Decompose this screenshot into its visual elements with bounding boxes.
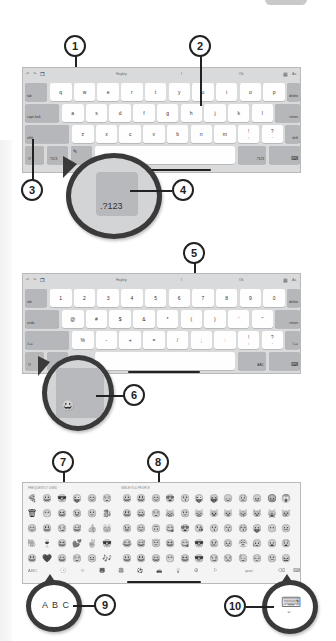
symbols-icon[interactable]: ☮ <box>194 567 198 573</box>
suggestion-2[interactable]: I <box>181 278 182 282</box>
undo-icon[interactable]: ↶ <box>26 278 29 282</box>
tab-key[interactable]: tab <box>25 289 47 307</box>
emoji-item[interactable]: 😊 <box>150 493 161 504</box>
keyboard-icon[interactable]: ▦ <box>283 71 288 77</box>
emoji-item[interactable]: 😎 <box>194 553 205 564</box>
recent-icon[interactable]: 🕒 <box>60 567 66 573</box>
emoji-item[interactable]: 😋 <box>179 538 190 549</box>
emoji-item[interactable]: 😇 <box>150 538 161 549</box>
key-1[interactable]: # <box>86 310 108 328</box>
key-6[interactable]: : <box>214 331 236 349</box>
abc-key[interactable]: ABC <box>238 352 266 370</box>
key-3[interactable]: v <box>143 125 165 143</box>
key-2[interactable]: $ <box>109 310 131 328</box>
key-8[interactable]: 8 <box>216 289 238 307</box>
emoji-item[interactable]: 😏 <box>208 553 219 564</box>
key-w[interactable]: w <box>74 83 96 101</box>
emoji-item[interactable]: 😄 <box>136 508 147 519</box>
emoji-item[interactable]: 😕 <box>266 553 277 564</box>
emoji-item[interactable]: 😗 <box>179 493 190 504</box>
emoji-item[interactable]: 😸 <box>194 508 205 519</box>
emoji-item[interactable]: 😔 <box>252 553 263 564</box>
caps-lock-key[interactable]: caps lock <box>25 104 59 122</box>
emoji-item[interactable]: 😉 <box>71 508 82 519</box>
key-p[interactable]: p <box>263 83 285 101</box>
emoji-item[interactable]: 😎 <box>194 538 205 549</box>
redo-icon[interactable]: ↷ <box>33 278 36 282</box>
key-q[interactable]: q <box>50 83 72 101</box>
key-9[interactable]: 9 <box>240 289 262 307</box>
key-4[interactable]: 4 <box>121 289 143 307</box>
emoji-item[interactable]: 😀 <box>121 493 132 504</box>
emoji-item[interactable]: 😌 <box>71 553 82 564</box>
emoji-item[interactable]: 🐉 <box>101 508 112 519</box>
key-1[interactable]: 1 <box>50 289 72 307</box>
keyboard-icon[interactable]: ▦ <box>283 277 288 283</box>
key-i[interactable]: i <box>216 83 238 101</box>
emoji-item[interactable]: 🐘 <box>26 538 37 549</box>
emoji-item[interactable]: 😽 <box>237 508 248 519</box>
emoji-item[interactable]: 😜 <box>194 493 205 504</box>
emoji-item[interactable]: ✌ <box>86 538 97 549</box>
emoji-item[interactable]: 😄 <box>150 553 161 564</box>
emoji-item[interactable]: 😊 <box>136 523 147 534</box>
objects-icon[interactable]: 💡 <box>175 567 181 573</box>
hide-keyboard-key[interactable]: ⌨ <box>269 352 300 370</box>
emoji-item[interactable]: 😌 <box>101 493 112 504</box>
emoji-item[interactable]: 😃 <box>136 553 147 564</box>
emoji-item[interactable]: 😆 <box>56 508 67 519</box>
undo-icon[interactable]: ↶ <box>26 72 29 76</box>
symbols-right-key[interactable]: #+= <box>285 331 300 349</box>
emoji-item[interactable]: 😎 <box>56 493 67 504</box>
key-0[interactable]: z <box>72 125 94 143</box>
undo-key[interactable]: undo <box>25 310 59 328</box>
key-4[interactable]: b <box>167 125 189 143</box>
emoji-item[interactable]: 😦 <box>266 538 277 549</box>
key-u[interactable]: u <box>192 83 214 101</box>
suggestion-3[interactable]: Ok <box>239 72 243 76</box>
emoji-item[interactable]: 😼 <box>223 508 234 519</box>
emoji-item[interactable]: 😥 <box>252 538 263 549</box>
key-0[interactable]: 0 <box>263 289 285 307</box>
emoji-item[interactable]: 😋 <box>165 523 176 534</box>
return-key[interactable]: return <box>275 104 300 122</box>
emoji-item[interactable]: 😐 <box>86 553 97 564</box>
activity-icon[interactable]: ⚽ <box>137 567 143 573</box>
emoji-item[interactable]: 😂 <box>121 538 132 549</box>
emoji-item[interactable]: 🍕 <box>26 493 37 504</box>
emoji-item[interactable]: 😓 <box>237 553 248 564</box>
emoji-key[interactable]: ☺ <box>25 146 44 164</box>
punct-key-1[interactable]: ?. <box>262 331 284 349</box>
key-3[interactable]: 3 <box>97 289 119 307</box>
emoji-item[interactable]: 😁 <box>165 553 176 564</box>
key-7[interactable]: 7 <box>192 289 214 307</box>
suggestion-1[interactable]: Hayley <box>116 278 127 282</box>
emoji-item[interactable]: 😤 <box>237 538 248 549</box>
travel-icon[interactable]: 🚗 <box>156 567 162 573</box>
emoji-item[interactable]: 😉 <box>121 523 132 534</box>
key-5[interactable]: ( <box>181 310 203 328</box>
key-2[interactable]: + <box>119 331 141 349</box>
emoji-item[interactable]: 😞 <box>223 493 234 504</box>
suggestion-2[interactable]: I <box>181 72 182 76</box>
key-5[interactable]: ; <box>191 331 213 349</box>
emoji-item[interactable]: 😖 <box>281 553 292 564</box>
key-3[interactable]: & <box>133 310 155 328</box>
symbols-left-key[interactable]: #+= <box>25 331 69 349</box>
emoji-item[interactable]: 😃 <box>136 493 147 504</box>
emoji-item[interactable]: 😛 <box>252 523 263 534</box>
emoji-item[interactable]: 😄 <box>56 553 67 564</box>
emoji-item[interactable]: 😐 <box>281 523 292 534</box>
abc-button[interactable]: ABC <box>28 568 38 573</box>
key-y[interactable]: y <box>169 83 191 101</box>
emoji-item[interactable]: 😚 <box>237 523 248 534</box>
key-0[interactable]: @ <box>62 310 84 328</box>
emoji-item[interactable]: 😃 <box>26 553 37 564</box>
emoji-item[interactable]: 😊 <box>86 493 97 504</box>
space-button[interactable]: space <box>245 569 253 573</box>
key-1[interactable]: x <box>96 125 118 143</box>
animals-icon[interactable]: 🐻 <box>99 567 105 573</box>
key-4[interactable]: g <box>157 104 179 122</box>
format-button[interactable]: Aa <box>292 278 296 282</box>
emoji-item[interactable]: 😎 <box>101 538 112 549</box>
